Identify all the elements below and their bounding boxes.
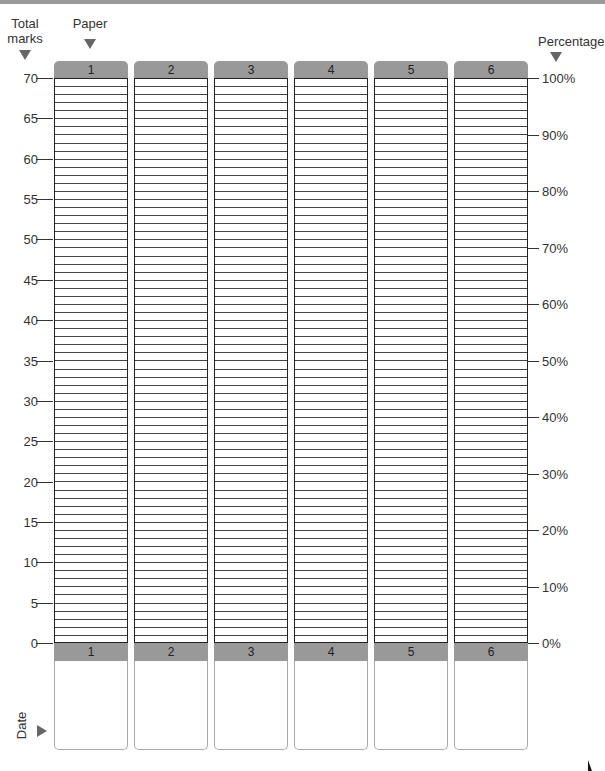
paper-score-column[interactable]: [454, 78, 528, 643]
left-axis-tick: [36, 280, 53, 281]
paper-tab-top: 6: [454, 61, 528, 78]
right-axis-tick: [528, 191, 539, 192]
left-axis-label: 65: [24, 111, 38, 126]
top-border-bar: [0, 0, 605, 4]
paper-score-column[interactable]: [54, 78, 128, 643]
left-axis-label: 40: [24, 313, 38, 328]
left-axis-label: 70: [24, 71, 38, 86]
right-axis-tick: [528, 417, 539, 418]
left-axis-label: 20: [24, 474, 38, 489]
left-axis-label: 0: [31, 636, 38, 651]
left-axis-tick: [36, 159, 53, 160]
right-axis-tick: [528, 78, 539, 79]
paper-tab-top: 5: [374, 61, 448, 78]
left-axis-label: 30: [24, 393, 38, 408]
right-axis-tick: [528, 530, 539, 531]
paper-tab-bottom: 1: [54, 643, 128, 661]
paper-tab-top: 1: [54, 61, 128, 78]
left-axis-tick: [36, 562, 53, 563]
right-axis-label: 100%: [542, 71, 575, 86]
right-axis-label: 0%: [542, 636, 561, 651]
paper-score-column[interactable]: [374, 78, 448, 643]
left-axis-tick: [36, 441, 53, 442]
left-axis-label: 45: [24, 272, 38, 287]
left-axis-tick: [36, 522, 53, 523]
paper-arrow-icon: [84, 39, 96, 49]
left-axis-label: 50: [24, 232, 38, 247]
paper-tab-bottom: 2: [134, 643, 208, 661]
paper-tab-bottom: 6: [454, 643, 528, 661]
total-marks-label: Total marks: [4, 16, 46, 46]
right-axis-tick: [528, 248, 539, 249]
right-axis-tick: [528, 643, 539, 644]
percentage-arrow-icon: [550, 52, 562, 62]
left-axis-tick: [36, 643, 53, 644]
date-entry-box[interactable]: [374, 661, 448, 750]
left-axis-tick: [36, 482, 53, 483]
date-entry-box[interactable]: [54, 661, 128, 750]
left-axis-label: 55: [24, 192, 38, 207]
paper-label: Paper: [70, 16, 110, 31]
right-axis-label: 20%: [542, 523, 568, 538]
right-axis-label: 80%: [542, 184, 568, 199]
left-axis-label: 25: [24, 434, 38, 449]
left-axis-tick: [36, 199, 53, 200]
left-axis-label: 15: [24, 514, 38, 529]
right-axis-tick: [528, 135, 539, 136]
date-entry-box[interactable]: [214, 661, 288, 750]
total-marks-label-line2: marks: [4, 31, 46, 46]
left-axis-label: 10: [24, 555, 38, 570]
paper-score-column[interactable]: [294, 78, 368, 643]
right-axis-tick: [528, 474, 539, 475]
paper-tab-top: 3: [214, 61, 288, 78]
right-axis-tick: [528, 361, 539, 362]
left-axis-label: 35: [24, 353, 38, 368]
total-marks-label-line1: Total: [4, 16, 46, 31]
date-entry-box[interactable]: [454, 661, 528, 750]
percentage-label: Percentage: [538, 34, 604, 49]
left-axis-tick: [36, 239, 53, 240]
date-arrow-icon: [37, 725, 47, 737]
left-axis-tick: [36, 401, 53, 402]
paper-score-column[interactable]: [134, 78, 208, 643]
left-axis-tick: [36, 361, 53, 362]
paper-tab-top: 2: [134, 61, 208, 78]
right-axis-label: 30%: [542, 466, 568, 481]
date-entry-box[interactable]: [294, 661, 368, 750]
right-axis-label: 70%: [542, 240, 568, 255]
paper-tab-bottom: 3: [214, 643, 288, 661]
left-axis-label: 60: [24, 151, 38, 166]
right-axis-tick: [528, 304, 539, 305]
right-axis-label: 60%: [542, 297, 568, 312]
paper-tab-bottom: 5: [374, 643, 448, 661]
left-axis-tick: [36, 118, 53, 119]
date-entry-box[interactable]: [134, 661, 208, 750]
left-axis-label: 5: [31, 595, 38, 610]
left-axis-tick: [36, 78, 53, 79]
paper-tab-top: 4: [294, 61, 368, 78]
right-axis-label: 90%: [542, 127, 568, 142]
date-label: Date: [14, 712, 29, 739]
right-axis-tick: [528, 587, 539, 588]
left-axis-tick: [36, 603, 53, 604]
paper-tab-bottom: 4: [294, 643, 368, 661]
right-axis-label: 50%: [542, 353, 568, 368]
paper-score-column[interactable]: [214, 78, 288, 643]
total-marks-arrow-icon: [19, 50, 31, 60]
right-axis-label: 40%: [542, 410, 568, 425]
right-axis-label: 10%: [542, 579, 568, 594]
mouse-cursor-icon: [588, 760, 592, 771]
left-axis-tick: [36, 320, 53, 321]
